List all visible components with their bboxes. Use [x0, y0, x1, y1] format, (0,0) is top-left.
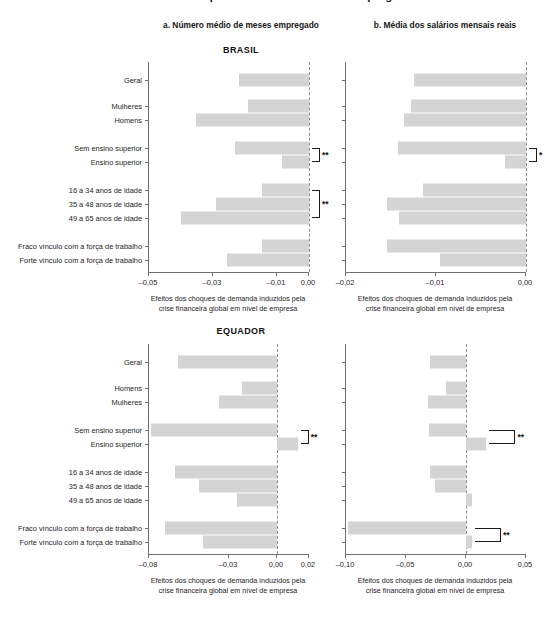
figure-title-clipped: Gráfico: Efeitos dos choques de demanda … — [0, 0, 545, 9]
category-label: Ensino superior — [91, 158, 142, 167]
x-axis-tick-label: 0,00 — [269, 560, 283, 569]
plot-area-equador-a: ** — [148, 344, 308, 554]
panel-b-title: b. Média dos salários mensais reais — [345, 20, 545, 30]
y-axis-tick — [145, 246, 149, 247]
panel-equador-a: GeralHomensMulheresSem ensino superiorEn… — [0, 344, 320, 584]
y-axis-tick — [145, 120, 149, 121]
bar — [399, 212, 526, 225]
y-axis-tick — [342, 486, 346, 487]
bar — [446, 382, 466, 395]
category-label: Homens — [114, 116, 142, 125]
axis-caption-equador-a: Efeitos dos choques de demanda induzidos… — [138, 576, 318, 596]
chart-block-brasil: GeralMulheresHomensSem ensino superiorEn… — [0, 62, 545, 302]
category-label: 49 a 65 anos de idade — [69, 496, 142, 505]
y-axis-tick — [145, 190, 149, 191]
significance-bracket — [312, 148, 320, 162]
bar — [277, 438, 298, 451]
axis-caption-equador-b: Efeitos dos choques de demanda induzidos… — [335, 576, 535, 596]
y-axis-tick — [342, 472, 346, 473]
bar — [237, 494, 277, 507]
axis-caption-line-1: Efeitos dos choques de demanda induzidos… — [138, 294, 318, 304]
y-axis-tick — [342, 500, 346, 501]
category-label: Homens — [114, 384, 142, 393]
bar — [466, 494, 472, 507]
axis-caption-brasil-b: Efeitos dos choques de demanda induzidos… — [335, 294, 535, 314]
bar — [235, 142, 309, 155]
y-axis-tick — [342, 162, 346, 163]
panel-brasil-b: * Efeitos dos choques de demanda induzid… — [320, 62, 545, 302]
plot-area-brasil-b: * — [345, 62, 525, 272]
bar — [219, 396, 277, 409]
y-axis-tick — [145, 472, 149, 473]
significance-marker: ** — [503, 531, 510, 540]
bar — [429, 424, 466, 437]
x-axis-tick-label: 0,00 — [458, 560, 472, 569]
country-heading-brasil: BRASIL — [146, 45, 336, 55]
y-axis-tick — [342, 402, 346, 403]
bar — [262, 184, 309, 197]
y-axis-tick — [145, 162, 149, 163]
y-axis-tick — [145, 486, 149, 487]
bar — [430, 356, 466, 369]
category-label: Forte vínculo com a força de trabalho — [20, 256, 142, 265]
x-axis-tick — [405, 554, 406, 558]
axis-caption-line-2: crise financeira global em nível de empr… — [138, 586, 318, 596]
bar — [430, 466, 466, 479]
x-axis-tick — [435, 272, 436, 276]
axis-caption-line-1: Efeitos dos choques de demanda induzidos… — [335, 576, 535, 586]
y-axis-tick — [145, 430, 149, 431]
category-label: Mulheres — [112, 102, 142, 111]
y-axis-tick — [342, 430, 346, 431]
plot-area-equador-b: **** — [345, 344, 525, 554]
y-axis-tick — [342, 204, 346, 205]
category-label: 35 a 48 anos de idade — [69, 200, 142, 209]
x-axis-tick — [345, 272, 346, 276]
significance-marker: ** — [311, 433, 318, 442]
bar — [248, 100, 309, 113]
y-axis-tick — [342, 148, 346, 149]
x-axis-tick — [525, 272, 526, 276]
axis-caption-line-2: crise financeira global em nível de empr… — [138, 304, 318, 314]
category-label: Mulheres — [112, 398, 142, 407]
y-axis-tick — [342, 246, 346, 247]
zero-reference-line — [526, 62, 527, 272]
x-axis-tick-label: –0,01 — [426, 278, 445, 287]
bar — [262, 240, 309, 253]
category-label: Geral — [124, 76, 142, 85]
x-axis-tick-label: 0,00 — [518, 278, 532, 287]
y-axis-tick — [342, 362, 346, 363]
panel-equador-b: **** Efeitos dos choques de demanda indu… — [320, 344, 545, 584]
x-axis-tick — [308, 272, 309, 276]
x-axis-tick — [148, 272, 149, 276]
y-axis-tick — [342, 218, 346, 219]
significance-bracket — [529, 148, 537, 162]
bar — [411, 100, 526, 113]
x-axis-tick-label: 0,05 — [518, 560, 532, 569]
axis-caption-line-2: crise financeira global em nível de empr… — [335, 586, 535, 596]
country-heading-equador: EQUADOR — [146, 326, 336, 336]
x-axis-tick-label: –0,03 — [219, 560, 238, 569]
y-axis-tick — [145, 528, 149, 529]
bar — [404, 114, 526, 127]
row-labels-equador: GeralHomensMulheresSem ensino superiorEn… — [0, 344, 146, 554]
y-axis-tick — [145, 218, 149, 219]
y-axis-tick — [145, 80, 149, 81]
x-axis-tick-label: 0,02 — [301, 560, 315, 569]
plot-area-brasil-a: **** — [148, 62, 308, 272]
bar — [282, 156, 309, 169]
category-label: Sem ensino superior — [74, 426, 142, 435]
y-axis-tick — [145, 542, 149, 543]
y-axis-tick — [145, 148, 149, 149]
y-axis-tick — [145, 106, 149, 107]
category-label: 49 a 65 anos de idade — [69, 214, 142, 223]
bar — [414, 74, 526, 87]
bar — [348, 522, 466, 535]
y-axis-tick — [342, 190, 346, 191]
x-axis-tick — [345, 554, 346, 558]
category-label: Fraco vínculo com a força de trabalho — [18, 242, 142, 251]
y-axis-tick — [145, 204, 149, 205]
bar — [227, 254, 309, 267]
significance-bracket — [475, 528, 501, 542]
y-axis-tick — [342, 106, 346, 107]
category-label: 35 a 48 anos de idade — [69, 482, 142, 491]
